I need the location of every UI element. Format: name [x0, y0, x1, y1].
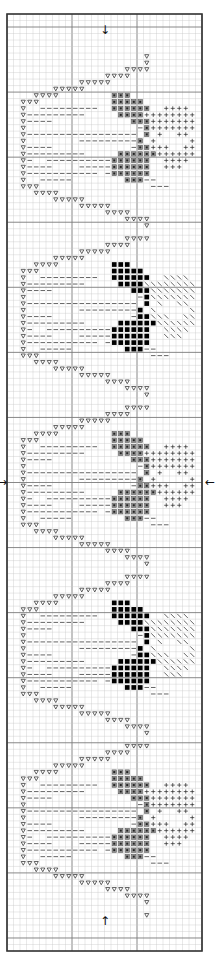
pattern-grid	[0, 0, 221, 967]
cross-stitch-chart: ↓ ↑ → ←	[0, 0, 221, 967]
center-arrow-right: ←	[205, 476, 215, 488]
center-arrow-top: ↓	[100, 24, 110, 36]
center-arrow-bottom: ↑	[100, 915, 110, 927]
center-arrow-left: →	[0, 476, 7, 488]
